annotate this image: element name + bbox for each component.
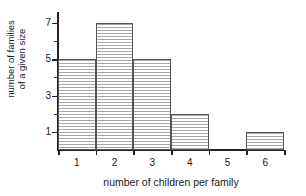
x-tick-4_5	[209, 150, 211, 155]
x-axis-title: number of children per family	[58, 176, 284, 188]
y-tick-label-5: 5	[45, 54, 51, 64]
x-tick-label-6: 6	[262, 157, 268, 168]
y-tick-6	[54, 41, 58, 42]
x-tick-6_5	[284, 150, 286, 155]
x-tick-2_5	[133, 150, 135, 155]
bar-6	[246, 132, 284, 150]
y-tick-5	[52, 59, 58, 61]
bar-1	[58, 59, 96, 150]
bar-4	[171, 114, 209, 150]
x-tick-label-5: 5	[225, 157, 231, 168]
histogram-chart: 1357123456 number of families of a given…	[0, 0, 306, 196]
plot-area: 1357123456	[58, 12, 284, 150]
y-tick-7	[52, 23, 58, 25]
x-tick-3_5	[171, 150, 173, 155]
x-tick-label-2: 2	[112, 157, 118, 168]
y-axis-title-line1: number of families	[5, 0, 16, 119]
x-tick-label-1: 1	[74, 157, 80, 168]
y-tick-3	[52, 96, 58, 98]
y-tick-1	[52, 132, 58, 134]
y-tick-4	[54, 77, 58, 78]
x-tick-label-3: 3	[149, 157, 155, 168]
y-axis-title: number of families of a given size	[5, 0, 27, 119]
x-tick-label-4: 4	[187, 157, 193, 168]
x-tick-0_5	[58, 150, 60, 155]
y-tick-label-1: 1	[45, 127, 51, 137]
y-axis-title-line2: of a given size	[16, 0, 27, 119]
y-tick-2	[54, 114, 58, 115]
bar-3	[133, 59, 171, 150]
y-tick-label-7: 7	[45, 18, 51, 28]
bar-2	[96, 23, 134, 150]
x-tick-5_5	[246, 150, 248, 155]
x-tick-1_5	[96, 150, 98, 155]
y-tick-label-3: 3	[45, 91, 51, 101]
